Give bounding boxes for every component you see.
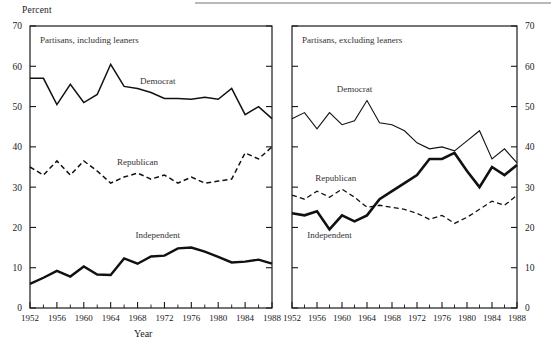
y-tick-label: 30 [525,183,535,193]
x-tick-label: 1968 [129,313,148,323]
y-tick-label: 50 [525,102,535,112]
x-tick-label: 1956 [48,313,67,323]
x-tick-label: 1988 [508,313,527,323]
y-tick-label: 40 [13,142,23,152]
y-tick-label: 10 [525,263,535,273]
chart-svg-left: 0102030405060701952195619601964196819721… [0,0,276,344]
x-tick-label: 1956 [308,313,327,323]
y-tick-label: 10 [13,263,23,273]
chart-panel-left: Percent 01020304050607019521956196019641… [0,0,276,344]
y-tick-label: 50 [13,102,23,112]
x-tick-label: 1972 [408,313,426,323]
x-tick-label: 1964 [102,313,121,323]
y-tick-label: 60 [525,62,535,72]
x-tick-label: 1984 [236,313,255,323]
x-tick-label: 1980 [209,313,228,323]
y-tick-label: 0 [525,303,530,313]
y-tick-label: 20 [13,223,23,233]
plot-frame [292,26,517,308]
plot-frame [30,26,272,308]
chart-panel-right: Percent 01020304050607019521956196019641… [275,0,551,344]
x-tick-label: 1952 [283,313,301,323]
series-label-republican: Republican [315,173,356,183]
y-tick-label: 40 [525,142,535,152]
series-label-independent: Independent [135,230,180,240]
x-tick-label: 1964 [358,313,377,323]
y-tick-label: 60 [13,62,23,72]
series-line-independent [292,153,517,230]
panel-annotation: Partisans, including leaners [40,35,139,45]
x-tick-label: 1968 [383,313,402,323]
x-tick-label: 1972 [155,313,173,323]
x-tick-label: 1976 [182,313,201,323]
series-line-democrat [292,101,517,163]
x-tick-label: 1976 [433,313,452,323]
series-label-independent: Independent [307,230,352,240]
x-tick-label: 1960 [75,313,94,323]
series-line-independent [30,248,272,284]
series-line-democrat [30,64,272,118]
series-line-republican [292,189,517,223]
y-tick-label: 0 [17,303,22,313]
x-tick-label: 1960 [333,313,352,323]
x-tick-label: 1952 [21,313,39,323]
y-tick-label: 30 [13,183,23,193]
series-label-democrat: Democrat [337,84,373,94]
chart-svg-right: 0102030405060701952195619601964196819721… [275,0,551,344]
y-tick-label: 20 [525,223,535,233]
x-tick-label: 1980 [458,313,477,323]
y-tick-label: 70 [525,21,535,31]
series-label-republican: Republican [117,157,158,167]
figure-partisanship-trends: Percent 01020304050607019521956196019641… [0,0,551,344]
x-axis-title-left: Year [134,328,152,339]
panel-annotation: Partisans, excluding leaners [302,35,403,45]
series-label-democrat: Democrat [140,76,176,86]
x-tick-label: 1984 [483,313,502,323]
y-tick-label: 70 [13,21,23,31]
